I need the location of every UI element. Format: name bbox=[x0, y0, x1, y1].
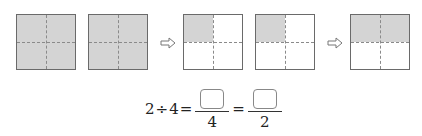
numerator-blank-2[interactable] bbox=[253, 89, 277, 109]
right-arrow-icon bbox=[160, 37, 176, 49]
divide-sign: ÷ bbox=[156, 100, 169, 118]
dividend: 2 bbox=[145, 100, 155, 118]
divisor: 4 bbox=[169, 100, 179, 118]
denominator-2: 2 bbox=[260, 115, 270, 130]
square-2-full bbox=[88, 14, 148, 70]
right-arrow-icon bbox=[327, 37, 343, 49]
denominator-1: 4 bbox=[207, 115, 217, 130]
square-4-quarter bbox=[255, 14, 315, 70]
square-5-half bbox=[350, 14, 410, 70]
numerator-blank-1[interactable] bbox=[200, 89, 224, 109]
square-3-quarter bbox=[183, 14, 243, 70]
division-equation: 2 ÷ 4 = 4 = 2 bbox=[145, 86, 284, 132]
fraction-1: 4 bbox=[195, 89, 229, 130]
equals-sign-2: = bbox=[232, 100, 245, 118]
square-1-full bbox=[16, 14, 76, 70]
equals-sign-1: = bbox=[180, 100, 193, 118]
fraction-2: 2 bbox=[248, 89, 282, 130]
